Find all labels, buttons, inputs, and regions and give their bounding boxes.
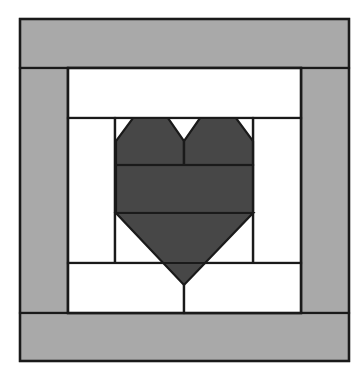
bottom-right-strip <box>184 263 301 313</box>
outer-border-top <box>20 19 349 68</box>
outer-border-left <box>20 68 68 313</box>
bottom-left-strip <box>68 263 184 313</box>
outer-border-right <box>301 68 349 313</box>
quilt-block-diagram: Heart quilt block piecing diagram <box>0 0 364 371</box>
heart-middle-band <box>116 165 253 213</box>
quilt-diagram-stage: Heart quilt block piecing diagram <box>0 0 364 371</box>
top-background-strip <box>68 68 301 118</box>
outer-border-bottom <box>20 313 349 361</box>
left-side-strip <box>68 118 115 263</box>
right-side-strip <box>253 118 301 263</box>
